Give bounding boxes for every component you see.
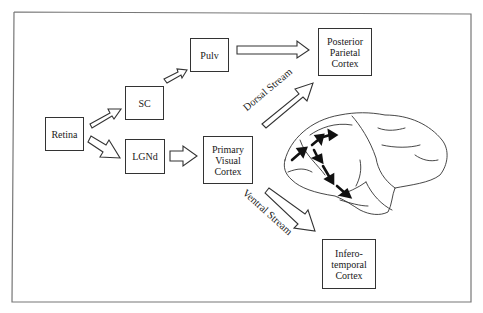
node-lgnd-label: LGNd [132, 151, 158, 162]
node-posterior-parietal-cortex: Posterior Parietal Cortex [318, 28, 372, 76]
it-line-3: Cortex [335, 270, 362, 281]
node-pulv-label: Pulv [200, 50, 218, 61]
it-line-2: temporal [331, 259, 367, 270]
node-primary-visual-cortex: Primary Visual Cortex [203, 136, 253, 184]
node-sc: SC [125, 86, 164, 120]
it-line-1: Infero- [335, 248, 363, 259]
node-inferotemporal-cortex: Infero- temporal Cortex [322, 239, 376, 289]
arrow-sc-to-pulv [164, 69, 187, 83]
ppc-line-2: Parietal [330, 47, 361, 58]
v1-line-1: Primary [212, 144, 244, 155]
v1-line-3: Cortex [214, 166, 241, 177]
arrow-retina-to-sc [90, 109, 121, 128]
ppc-line-3: Cortex [331, 58, 358, 69]
node-sc-label: SC [138, 98, 150, 109]
node-lgnd: LGNd [125, 139, 165, 174]
node-retina-label: Retina [51, 129, 77, 140]
node-retina: Retina [45, 117, 84, 151]
arrow-retina-to-lgnd [88, 136, 120, 158]
node-pulv: Pulv [190, 38, 229, 72]
arrow-pulv-to-ppc [237, 41, 309, 58]
ppc-line-1: Posterior [327, 36, 363, 47]
arrow-lgnd-to-v1 [170, 146, 197, 166]
v1-line-2: Visual [215, 155, 241, 166]
brain-illustration [284, 113, 447, 215]
